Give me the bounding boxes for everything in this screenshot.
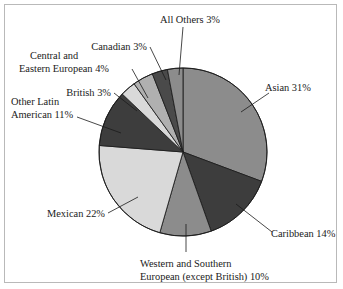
- slice-label-all-others: All Others 3%: [160, 14, 220, 25]
- slice-label-other-latin-american-line2: American 11%: [11, 109, 74, 120]
- slice-label-central-eastern-european-line2: Eastern European 4%: [19, 63, 109, 74]
- slice-label-central-eastern-european-line1: Central and: [30, 50, 79, 61]
- slice-label-asian: Asian 31%: [265, 82, 311, 93]
- slice-label-western-southern-european-line1: Western and Southern: [140, 258, 232, 269]
- slice-label-other-latin-american-line1: Other Latin: [11, 96, 60, 107]
- leader-line-caribbean: [236, 204, 272, 232]
- slice-label-canadian: Canadian 3%: [91, 41, 147, 52]
- slice-label-caribbean: Caribbean 14%: [271, 228, 336, 239]
- slice-label-mexican: Mexican 22%: [47, 208, 105, 219]
- pie-chart-figure: Asian 31% Caribbean 14% Western and Sout…: [0, 0, 343, 289]
- slice-label-british: British 3%: [66, 87, 111, 98]
- pie-slices-group: [99, 68, 267, 236]
- pie-chart-svg: Asian 31% Caribbean 14% Western and Sout…: [0, 0, 343, 289]
- slice-label-western-southern-european-line2: European (except British) 10%: [140, 271, 269, 283]
